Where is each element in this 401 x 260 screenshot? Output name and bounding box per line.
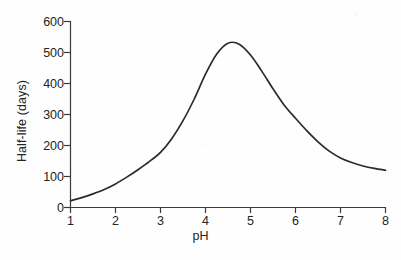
y-tick-label-100: 100	[30, 170, 64, 184]
y-tick-label-300: 300	[30, 108, 64, 122]
y-tick-marks	[64, 22, 70, 208]
x-axis-title: pH	[0, 229, 401, 243]
y-tick-label-200: 200	[30, 139, 64, 153]
x-tick-label-7: 7	[332, 214, 350, 228]
x-tick-marks	[71, 208, 386, 214]
x-tick-label-8: 8	[377, 214, 395, 228]
y-tick-label-600: 600	[30, 15, 64, 29]
y-tick-label-500: 500	[30, 46, 64, 60]
x-tick-label-2: 2	[107, 214, 125, 228]
x-tick-label-5: 5	[242, 214, 260, 228]
chart-figure: 600 500 400 300 200 100 0 1 2 3 4 5 6 7 …	[0, 0, 401, 260]
x-tick-label-3: 3	[152, 214, 170, 228]
x-tick-label-6: 6	[287, 214, 305, 228]
y-axis-title: Half-life (days)	[15, 55, 29, 187]
y-tick-label-0: 0	[30, 201, 64, 215]
x-tick-label-1: 1	[62, 214, 80, 228]
x-tick-label-4: 4	[197, 214, 215, 228]
data-series-line	[71, 42, 386, 200]
y-tick-label-400: 400	[30, 77, 64, 91]
